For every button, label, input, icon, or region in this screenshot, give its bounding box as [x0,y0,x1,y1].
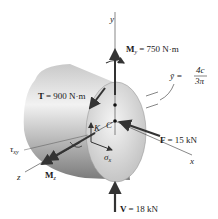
origin-dot [113,119,117,123]
centroid-label: C [106,120,113,130]
shaft-free-body-diagram: y x z My= 750 N·m T= 900 N·m C ȳ = 4c 3π… [0,0,218,219]
ybar-label: ȳ = [169,71,182,81]
tau-xy-label: τxy [10,144,19,155]
ybar-leader-line [160,84,174,100]
ybar-numerator: 4c [196,65,205,75]
ybar-denominator: 3π [194,76,205,86]
centroid-dot [113,103,117,107]
z-axis-label: z [16,172,21,182]
my-label: My= 750 N·m [126,44,179,55]
t-label: T= 900 N·m [38,91,86,101]
ybar-dim-line-2 [146,104,158,108]
y-axis-label: y [109,14,114,24]
point-k-label: K [93,123,101,133]
ybar-dim-line-1 [146,92,158,96]
mz-label: Mz [45,170,57,181]
v-label: V= 18 kN [120,204,159,214]
shaft-body [24,64,146,182]
x-axis-label: x [189,156,194,166]
